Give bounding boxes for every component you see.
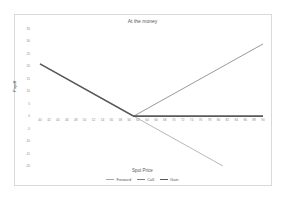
- x-tick-label: 58: [119, 118, 123, 122]
- call-swatch-icon: [137, 179, 145, 180]
- x-tick-label: 54: [101, 118, 105, 122]
- legend-item-gain: Gain: [160, 177, 178, 182]
- x-tick-label: 80: [217, 118, 221, 122]
- y-tick-label: -10: [25, 139, 30, 143]
- y-tick-label: 10: [26, 89, 30, 93]
- series-call: [134, 44, 263, 116]
- y-tick-label: 35: [26, 27, 30, 31]
- x-tick-label: 86: [243, 118, 247, 122]
- x-tick-label: 70: [172, 118, 176, 122]
- forward-swatch-icon: [106, 179, 114, 180]
- x-tick-label: 52: [92, 118, 96, 122]
- x-tick-label: 74: [190, 118, 194, 122]
- y-tick-label: -15: [25, 152, 30, 156]
- y-tick-label: 5: [28, 102, 30, 106]
- y-tick-label: -20: [25, 164, 30, 168]
- x-tick-label: 72: [181, 118, 185, 122]
- x-tick-label: 40: [38, 118, 42, 122]
- x-tick-label: 50: [83, 118, 87, 122]
- x-tick-label: 46: [65, 118, 69, 122]
- series-gain: [40, 64, 263, 116]
- y-tick-label: 25: [26, 52, 30, 56]
- legend-label: Call: [147, 177, 154, 182]
- gain-swatch-icon: [160, 179, 168, 180]
- x-tick-label: 76: [199, 118, 203, 122]
- legend-label: Forward: [116, 177, 131, 182]
- x-tick-label: 88: [252, 118, 256, 122]
- x-tick-label: 48: [74, 118, 78, 122]
- x-tick-label: 66: [154, 118, 158, 122]
- x-tick-label: 56: [110, 118, 114, 122]
- x-tick-label: 90: [261, 118, 265, 122]
- x-tick-label: 44: [56, 118, 60, 122]
- legend-label: Gain: [170, 177, 178, 182]
- x-tick-label: 60: [127, 118, 131, 122]
- y-tick-label: 0: [28, 114, 30, 118]
- y-tick-label: 15: [26, 77, 30, 81]
- legend-item-forward: Forward: [106, 177, 131, 182]
- x-tick-label: 84: [234, 118, 238, 122]
- plot-area: 35302520151050-5-10-15-20404244464850525…: [0, 0, 285, 199]
- legend-item-call: Call: [137, 177, 154, 182]
- x-tick-label: 42: [47, 118, 51, 122]
- x-tick-label: 82: [226, 118, 230, 122]
- legend: Forward Call Gain: [0, 177, 285, 182]
- x-tick-label: 78: [208, 118, 212, 122]
- x-tick-label: 68: [163, 118, 167, 122]
- y-tick-label: 30: [26, 39, 30, 43]
- y-tick-label: 20: [26, 64, 30, 68]
- y-tick-label: -5: [27, 127, 30, 131]
- x-tick-label: 64: [145, 118, 149, 122]
